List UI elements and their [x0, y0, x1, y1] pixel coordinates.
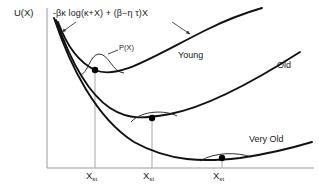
- curve-label-very-old: Very Old: [249, 135, 284, 144]
- probability-label: P(X): [119, 44, 134, 52]
- minimum-marker-very-old: [219, 155, 225, 161]
- formula-arrow-left: [62, 22, 76, 32]
- minimum-marker-old: [149, 115, 155, 121]
- x-tick-label-very-old: Xst: [213, 171, 224, 181]
- x-tick-label-old: Xst: [143, 171, 154, 181]
- curve-label-old: Old: [277, 61, 291, 70]
- minimum-marker-young: [92, 67, 98, 73]
- curve-label-young: Young: [178, 51, 203, 60]
- x-tick-sub-very-old: st: [219, 176, 224, 182]
- x-tick-sub-old: st: [149, 176, 154, 182]
- formula-arrow-right: [172, 22, 190, 34]
- x-tick-sub-young: st: [92, 176, 97, 182]
- probability-leader-line: [108, 50, 118, 54]
- utility-curves-plot: [0, 0, 319, 192]
- utility-function-formula: -βκ log(κ+X) + (β−η τ)X: [53, 9, 148, 18]
- x-tick-label-young: Xst: [86, 171, 97, 181]
- y-axis-label: U(X): [14, 8, 34, 18]
- figure-container: U(X) -βκ log(κ+X) + (β−η τ)X P(X) Young …: [0, 0, 319, 192]
